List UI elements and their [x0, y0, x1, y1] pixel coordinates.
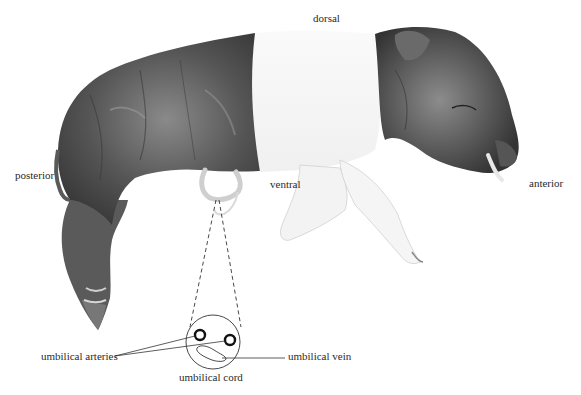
- label-anterior: anterior: [529, 177, 563, 189]
- hind-leg: [62, 200, 128, 330]
- head: [375, 27, 519, 180]
- label-umbilical-cord: umbilical cord: [179, 371, 243, 383]
- label-umbilical-arteries: umbilical arteries: [41, 350, 118, 362]
- label-ventral: ventral: [270, 178, 301, 190]
- front-legs: [280, 160, 423, 264]
- fetal-pig-illustration: [0, 0, 581, 395]
- cord-outline: [186, 315, 240, 369]
- umbilical-cord-stub: [202, 170, 240, 214]
- label-posterior: posterior: [15, 169, 54, 181]
- label-dorsal: dorsal: [313, 12, 340, 24]
- zoom-guide-lines: [190, 200, 241, 327]
- umbilical-cord-cross-section: [186, 315, 240, 369]
- figure: dorsal posterior ventral anterior umbili…: [0, 0, 581, 395]
- rear-body: [56, 33, 275, 225]
- white-midsection: [252, 31, 381, 172]
- label-umbilical-vein: umbilical vein: [288, 350, 351, 362]
